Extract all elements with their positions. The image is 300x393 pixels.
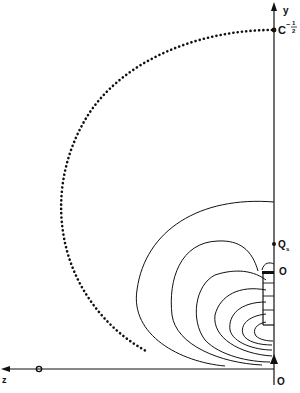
point-c-exp-den: 2 <box>292 28 296 34</box>
point-c-exp-sign: − <box>286 21 290 28</box>
point-c-exp-num: 1 <box>292 20 296 26</box>
conductor-strip <box>262 271 274 325</box>
point-qs-marker <box>272 242 276 246</box>
bottom-origin-label: O <box>277 376 285 387</box>
field-contours <box>136 201 274 366</box>
point-qs-label: Q <box>278 239 286 250</box>
mid-origin-label: O <box>279 266 287 277</box>
y-axis-label: y <box>283 5 289 16</box>
y-axis-arrow-icon <box>271 2 277 11</box>
contour-5 <box>230 302 272 350</box>
contour-near-top <box>262 263 274 270</box>
z-axis-arrow-icon <box>1 366 10 372</box>
axes <box>1 2 277 385</box>
point-qs-subscript: s <box>286 246 290 252</box>
z-axis-label: z <box>2 375 7 385</box>
diagram-canvas: y z C − 1 2 Q s O O O <box>0 0 300 393</box>
point-c-marker <box>272 28 277 33</box>
dotted-boundary-arc <box>61 30 272 352</box>
strip-top-cap <box>262 271 274 274</box>
point-c-label: C <box>278 24 286 36</box>
